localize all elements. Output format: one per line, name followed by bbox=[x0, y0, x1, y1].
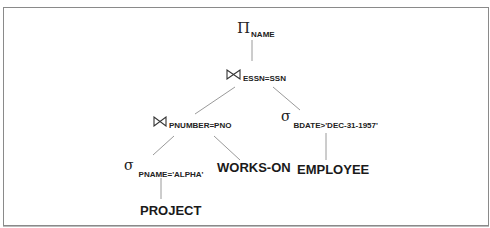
projection-attributes: NAME bbox=[251, 30, 275, 39]
edge-join-top-to-join-left bbox=[195, 87, 235, 114]
select-bdate-condition: BDATE>'DEC-31-1957' bbox=[294, 121, 378, 130]
relation-project: PROJECT bbox=[140, 204, 201, 217]
projection-node: ΠNAME bbox=[237, 20, 274, 36]
join-left-node: PNUMBER=PNO bbox=[153, 114, 229, 130]
select-pname-node: σPNAME='ALPHA' bbox=[124, 157, 198, 173]
projection-symbol: Π bbox=[237, 19, 250, 37]
join-top-condition: ESSN=SSN bbox=[243, 74, 286, 83]
join-top-node: ESSN=SSN bbox=[226, 67, 284, 83]
selection-symbol: σ bbox=[281, 108, 291, 124]
edge-join-left-to-works-on bbox=[214, 136, 240, 160]
join-bowtie-icon bbox=[153, 116, 167, 127]
edge-join-top-to-select-bdate bbox=[273, 87, 300, 110]
selection-symbol: σ bbox=[124, 157, 134, 173]
join-left-condition: PNUMBER=PNO bbox=[169, 121, 231, 130]
select-bdate-node: σBDATE>'DEC-31-1957' bbox=[281, 108, 375, 124]
edge-join-left-to-select-pname bbox=[153, 136, 174, 155]
join-bowtie-icon bbox=[226, 69, 241, 80]
relation-employee: EMPLOYEE bbox=[297, 163, 369, 176]
select-pname-condition: PNAME='ALPHA' bbox=[139, 170, 204, 179]
relation-works-on: WORKS-ON bbox=[217, 161, 291, 174]
